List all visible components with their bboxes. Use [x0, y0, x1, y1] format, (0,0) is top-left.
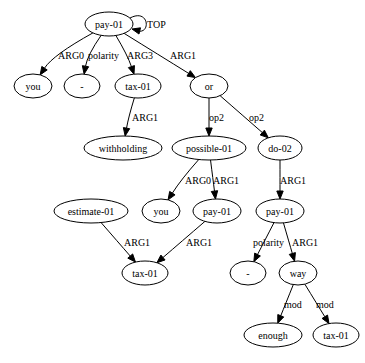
node-label: tax-01 [125, 81, 151, 92]
edge-label: ARG0 [185, 175, 211, 186]
arrowhead-icon [211, 191, 217, 199]
edge-arg1: ARG1 [283, 223, 318, 261]
node-label: you [154, 206, 169, 217]
node-label: withholding [99, 143, 147, 154]
node-label: or [205, 81, 214, 92]
edge-line [283, 223, 292, 254]
node-negation: - [230, 261, 266, 285]
node-label: you [26, 81, 41, 92]
arrowhead-icon [254, 253, 261, 262]
node-estimate-01: estimate-01 [54, 199, 128, 223]
edge-label: polarity [88, 50, 119, 61]
edge-top: TOP [130, 16, 166, 34]
edge-arg3: ARG3 [116, 35, 153, 74]
arrowhead-icon [278, 315, 284, 324]
edge-label: ARG1 [170, 50, 196, 61]
edge-label: op2 [209, 112, 224, 123]
node-withholding: withholding [84, 136, 162, 160]
edge-label: mod [284, 299, 302, 310]
edge-mod: mod [305, 284, 334, 323]
node-way: way [279, 261, 317, 285]
arrowhead-icon [289, 253, 295, 262]
arrowhead-icon [132, 28, 141, 34]
arrowhead-icon [40, 66, 47, 74]
node-pay-01: pay-01 [85, 12, 133, 36]
node-you: you [14, 74, 52, 98]
node-do-02: do-02 [258, 136, 302, 160]
node-tax-01: tax-01 [115, 74, 161, 98]
node-label: pay-01 [95, 19, 123, 30]
arrowhead-icon [322, 315, 329, 323]
edge-label: ARG0 [58, 50, 84, 61]
node-label: possible-01 [186, 143, 232, 154]
edge-label: ARG1 [213, 175, 239, 186]
arrowhead-icon [82, 66, 88, 74]
arrowhead-icon [187, 71, 195, 78]
edge-label: ARG1 [124, 237, 150, 248]
edge-arg1: ARG1 [157, 221, 212, 262]
edge-op2: op2 [220, 96, 268, 138]
node-tax-01: tax-01 [122, 261, 168, 285]
edge-arg1: ARG1 [123, 98, 158, 136]
arrowhead-icon [168, 191, 175, 199]
node-negation: - [64, 74, 100, 98]
edge-label: op2 [249, 112, 264, 123]
node-possible-01: possible-01 [172, 136, 246, 160]
arrowhead-icon [123, 128, 129, 136]
edge-label: ARG1 [292, 237, 318, 248]
node-label: do-02 [268, 143, 291, 154]
node-label: enough [258, 330, 287, 341]
node-tax-01: tax-01 [313, 323, 359, 347]
edge-label: ARG1 [132, 112, 158, 123]
amr-graph: TOPARG0polarityARG3ARG1ARG1op2op2ARG0ARG… [0, 0, 365, 363]
node-label: way [290, 268, 307, 279]
node-label: tax-01 [132, 268, 158, 279]
node-label: pay-01 [266, 206, 294, 217]
node-or: or [190, 74, 228, 98]
arrowhead-icon [277, 191, 283, 199]
node-label: estimate-01 [68, 206, 115, 217]
edge-label: TOP [147, 19, 166, 30]
edge-polarity: polarity [253, 223, 284, 262]
node-you: you [142, 199, 180, 223]
arrowhead-icon [206, 128, 212, 136]
edge-label: mod [316, 299, 334, 310]
edge-label: ARG1 [186, 237, 212, 248]
edge-label: polarity [253, 237, 284, 248]
node-label: - [246, 268, 249, 279]
node-pay-01: pay-01 [256, 199, 304, 223]
edge-arg1: ARG1 [277, 160, 306, 199]
node-pay-01: pay-01 [193, 199, 241, 223]
node-label: tax-01 [323, 330, 349, 341]
edge-arg1: ARG1 [211, 160, 240, 199]
edge-label: ARG1 [280, 175, 306, 186]
edge-op2: op2 [206, 98, 224, 136]
node-enough: enough [244, 323, 302, 347]
node-label: pay-01 [203, 206, 231, 217]
edge-polarity: polarity [82, 35, 119, 74]
arrowhead-icon [128, 66, 134, 75]
edge-mod: mod [278, 285, 302, 324]
edge-label: ARG3 [127, 50, 153, 61]
edge-arg0: ARG0 [168, 160, 211, 200]
edge-arg1: ARG1 [101, 223, 150, 263]
node-label: - [80, 81, 83, 92]
